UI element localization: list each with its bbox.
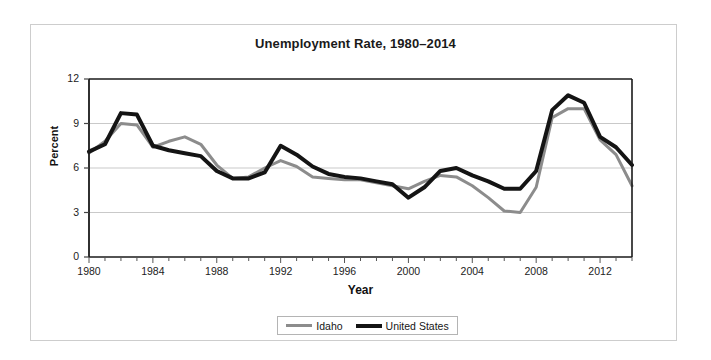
legend-label-united-states: United States: [386, 320, 449, 332]
y-tick-label-3: 3: [53, 206, 79, 218]
legend-swatch-united-states: [356, 324, 382, 328]
y-tick-label-6: 6: [53, 161, 79, 173]
x-tick-label-2000: 2000: [388, 265, 428, 277]
x-tick-label-2008: 2008: [516, 265, 556, 277]
chart-legend: Idaho United States: [277, 316, 458, 335]
series-line-united-states: [89, 95, 632, 197]
series-lines-group: [89, 95, 632, 212]
legend-item-idaho: Idaho: [286, 320, 342, 332]
legend-swatch-idaho: [286, 324, 312, 327]
legend-item-united-states: United States: [356, 320, 449, 332]
legend-label-idaho: Idaho: [316, 320, 342, 332]
x-tick-label-1996: 1996: [325, 265, 365, 277]
plot-area-container: Percent 036912 1980198419881992199620002…: [0, 0, 711, 360]
x-tick-label-2012: 2012: [580, 265, 620, 277]
x-tick-label-1992: 1992: [261, 265, 301, 277]
x-tick-label-2004: 2004: [452, 265, 492, 277]
x-tick-label-1980: 1980: [69, 265, 109, 277]
plot-canvas: [0, 0, 711, 360]
series-line-idaho: [89, 109, 632, 213]
x-tickmarks-group: [84, 79, 632, 263]
y-axis-title: Percent: [48, 86, 60, 206]
x-tick-label-1988: 1988: [197, 265, 237, 277]
y-tick-label-9: 9: [53, 117, 79, 129]
y-tick-label-0: 0: [53, 250, 79, 262]
x-tick-label-1984: 1984: [133, 265, 173, 277]
x-axis-title: Year: [89, 283, 632, 297]
y-tick-label-12: 12: [53, 72, 79, 84]
chart-figure: Unemployment Rate, 1980–2014 Percent 036…: [0, 0, 711, 360]
gridlines-group: [89, 124, 632, 213]
